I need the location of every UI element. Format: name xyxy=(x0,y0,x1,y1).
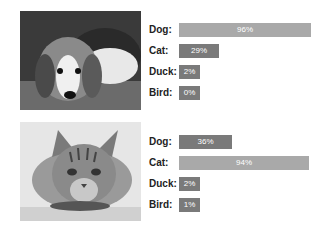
bar-bird: 0% xyxy=(179,86,200,100)
label-bird: Bird: xyxy=(149,198,172,212)
label-cat: Cat: xyxy=(149,156,168,170)
bar-duck: 2% xyxy=(179,65,200,79)
label-bird: Bird: xyxy=(149,86,172,100)
bar-dog: 36% xyxy=(179,135,232,149)
cat-photo xyxy=(20,122,141,221)
bar-cat: 29% xyxy=(179,44,219,58)
label-dog: Dog: xyxy=(149,23,172,37)
cat-photo-icon xyxy=(20,122,141,221)
label-duck: Duck: xyxy=(149,177,177,191)
dog-photo xyxy=(20,11,141,110)
bar-cat: 94% xyxy=(179,156,309,170)
dog-photo-icon xyxy=(20,11,141,110)
label-duck: Duck: xyxy=(149,65,177,79)
label-cat: Cat: xyxy=(149,44,168,58)
bar-duck: 2% xyxy=(179,177,200,191)
bar-dog: 96% xyxy=(179,23,311,37)
label-dog: Dog: xyxy=(149,135,172,149)
bar-bird: 1% xyxy=(179,198,200,212)
